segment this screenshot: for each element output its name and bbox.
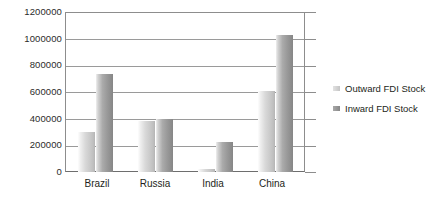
y-tick-label: 1200000 — [0, 7, 62, 17]
legend-label: Outward FDI Stock — [345, 83, 425, 94]
x-tick-label-brazil: Brazil — [84, 178, 109, 190]
bar-chart: 1200000 1000000 800000 600000 400000 200… — [0, 0, 448, 205]
legend-swatch-icon — [333, 86, 340, 91]
tick-mark — [305, 66, 316, 67]
legend: Outward FDI Stock Inward FDI Stock — [333, 78, 445, 118]
bar-group-india — [198, 12, 233, 172]
x-tick-label-india: India — [202, 178, 224, 190]
y-axis: 1200000 1000000 800000 600000 400000 200… — [0, 0, 62, 205]
bar-india-outward-fdi-stock — [198, 169, 215, 172]
tick-mark — [305, 172, 316, 173]
bar-russia-inward-fdi-stock — [156, 119, 173, 172]
tick-mark — [305, 12, 316, 13]
y-tick-label: 800000 — [0, 60, 62, 70]
bar-russia-outward-fdi-stock — [138, 121, 155, 172]
tick-mark — [305, 119, 316, 120]
y-tick-label: 600000 — [0, 87, 62, 97]
tick-mark — [305, 39, 316, 40]
bar-group-china — [258, 12, 293, 172]
bar-india-inward-fdi-stock — [216, 142, 233, 172]
bar-china-inward-fdi-stock — [276, 35, 293, 172]
x-axis: Brazil Russia India China — [65, 178, 305, 198]
y-tick-label: 400000 — [0, 114, 62, 124]
bar-china-outward-fdi-stock — [258, 91, 275, 172]
bar-group-brazil — [78, 12, 113, 172]
x-tick-label-russia: Russia — [140, 178, 171, 190]
bar-brazil-outward-fdi-stock — [78, 132, 95, 172]
x-tick-label-china: China — [259, 178, 285, 190]
y-tick-label: 1000000 — [0, 34, 62, 44]
y-axis-tick-marks — [305, 12, 316, 173]
y-tick-label: 200000 — [0, 140, 62, 150]
legend-swatch-icon — [333, 106, 340, 111]
y-tick-label: 0 — [0, 167, 62, 177]
bar-group-russia — [138, 12, 173, 172]
legend-item-outward[interactable]: Outward FDI Stock — [333, 78, 445, 98]
legend-item-inward[interactable]: Inward FDI Stock — [333, 98, 445, 118]
tick-mark — [305, 146, 316, 147]
bar-brazil-inward-fdi-stock — [96, 74, 113, 172]
tick-mark — [305, 92, 316, 93]
legend-label: Inward FDI Stock — [345, 103, 418, 114]
bars-layer — [65, 12, 305, 172]
